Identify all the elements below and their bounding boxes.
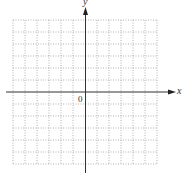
y-axis-label: y: [83, 0, 87, 7]
origin-label: 0: [78, 95, 83, 104]
x-axis-arrow-icon: [168, 90, 176, 95]
y-axis-arrow-icon: [83, 7, 88, 15]
x-axis-label: x: [177, 86, 181, 96]
coordinate-plane: [0, 0, 184, 176]
